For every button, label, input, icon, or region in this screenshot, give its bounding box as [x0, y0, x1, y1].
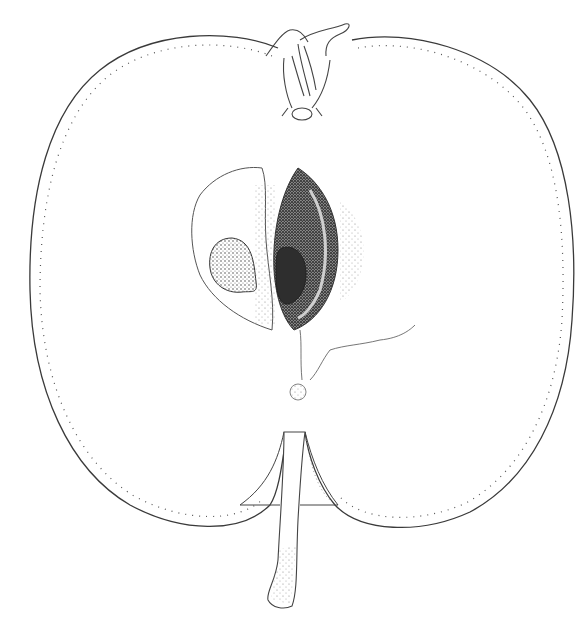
calyx	[266, 24, 349, 120]
stem	[268, 432, 305, 608]
vascular-strand	[290, 325, 415, 400]
apple-illustration: Longitudinal cross-section of an apple (…	[0, 0, 584, 629]
